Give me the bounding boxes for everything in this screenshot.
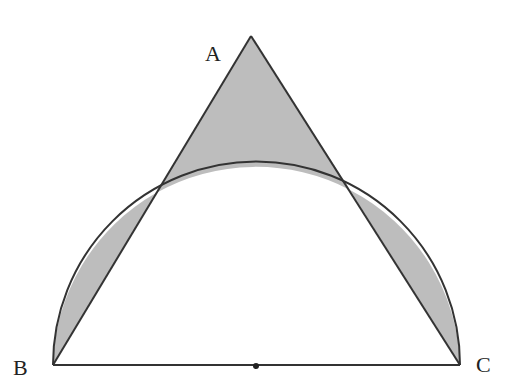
side-ab [53, 36, 251, 365]
center-point [253, 363, 259, 369]
geometry-diagram: A B C [0, 0, 521, 389]
shaded-region-top [156, 36, 350, 193]
side-ac [251, 36, 460, 365]
label-a: A [205, 41, 221, 66]
label-c: C [476, 352, 491, 377]
label-b: B [13, 355, 28, 380]
